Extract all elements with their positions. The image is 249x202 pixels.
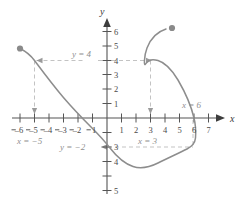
x-axis-arrow-icon [216, 114, 225, 122]
arrow-x-neg5-down-icon [32, 108, 37, 114]
label-x-equals-neg5: x = −5 [16, 136, 43, 146]
x-tick-label: 6 [192, 125, 196, 135]
coordinate-plane: x y –6 –5 –4 –3 –2 1 1 2 3 4 5 6 7 [0, 0, 249, 202]
arrow-y4-left-icon [37, 58, 43, 63]
axis-arrowheads [103, 18, 225, 122]
x-axis-label: x [229, 113, 235, 124]
label-y-equals-neg2: y = −2 [59, 142, 86, 152]
x-tick-label: 1 [119, 125, 123, 135]
graph-figure: x y –6 –5 –4 –3 –2 1 1 2 3 4 5 6 7 [0, 0, 249, 202]
x-tick-label: 3 [148, 125, 152, 135]
y-axis-arrow-icon [103, 18, 111, 27]
x-tick-label: 1 [92, 125, 96, 135]
y-tick-label: 3 [114, 70, 118, 80]
y-axis-label: y [99, 6, 105, 17]
label-y-equals-4: y = 4 [71, 49, 92, 59]
dashed-arrowheads [32, 58, 153, 150]
right-endpoint-dot [169, 25, 175, 31]
y-tick-label: 5 [114, 41, 118, 51]
x-tick-label: 5 [177, 125, 181, 135]
y-tick-label: 2 [114, 84, 118, 94]
x-tick-label: 4 [163, 125, 168, 135]
y-tick-label: 1 [114, 99, 118, 109]
x-tick-label: 7 [206, 125, 210, 135]
y-tick-label: 6 [114, 27, 118, 37]
label-x-equals-3: x = 3 [137, 136, 158, 146]
y-tick-label: 4 [114, 56, 119, 66]
label-x-equals-6: x = 6 [181, 100, 202, 110]
x-tick-label: 2 [134, 125, 138, 135]
left-endpoint-dot [17, 45, 23, 51]
y-tick-label: 5 [114, 186, 118, 196]
y-tick-label: 3 [114, 142, 118, 152]
arrow-x-3-down-icon [148, 108, 153, 114]
